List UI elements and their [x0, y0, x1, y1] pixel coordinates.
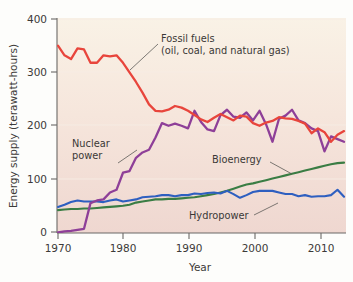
x-tick-2000: 2000 — [242, 242, 269, 254]
nuclear-power-label-line1: Nuclear — [72, 138, 111, 149]
nuclear-power-label-line2: power — [72, 150, 103, 161]
y-tick-0: 0 — [40, 226, 47, 238]
x-tick-1980: 1980 — [110, 242, 137, 254]
x-tick-2010: 2010 — [308, 242, 335, 254]
y-axis-label: Energy supply (terawatt-hours) — [7, 44, 19, 208]
y-tick-400: 400 — [27, 13, 47, 25]
hydropower-label: Hydropower — [189, 210, 249, 221]
bioenergy-label: Bioenergy — [212, 154, 262, 165]
x-axis-label: Year — [188, 261, 212, 273]
fossil-fuels-label-line1: Fossil fuels — [161, 33, 215, 44]
chart-svg: 400 300 200 100 0 1970 1980 1990 2000 20… — [0, 0, 353, 282]
x-tick-1970: 1970 — [45, 242, 72, 254]
y-tick-300: 300 — [27, 66, 47, 78]
y-tick-100: 100 — [27, 173, 47, 185]
fossil-fuels-label-line2: (oil, coal, and natural gas) — [161, 45, 290, 56]
y-tick-200: 200 — [27, 119, 47, 131]
x-tick-1990: 1990 — [176, 242, 203, 254]
energy-supply-chart: 400 300 200 100 0 1970 1980 1990 2000 20… — [0, 0, 353, 282]
